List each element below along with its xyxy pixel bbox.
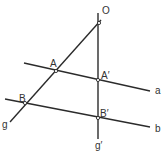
point-a-prime — [96, 78, 99, 81]
point-a — [54, 69, 57, 72]
label-a-prime: A′ — [101, 70, 110, 81]
label-g: g — [2, 119, 8, 130]
line-a — [24, 63, 150, 91]
label-b-prime: B′ — [100, 108, 109, 119]
label-o: O — [102, 5, 110, 16]
label-b-line: b — [155, 123, 161, 134]
label-b: B — [19, 93, 26, 104]
label-a: A — [50, 58, 57, 69]
label-g-prime: g′ — [95, 140, 103, 151]
label-a-line: a — [155, 85, 161, 96]
intercept-theorem-diagram: O A A′ B B′ g g′ a b — [0, 0, 163, 152]
point-o — [97, 21, 100, 24]
